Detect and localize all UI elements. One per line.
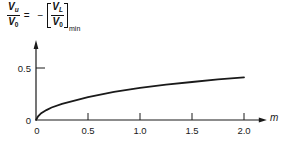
x-tick-label: 1.5: [185, 125, 198, 136]
y-tick-label: 0.5: [18, 63, 31, 74]
tick-labels: 00.51.01.52.000.5: [18, 63, 251, 137]
x-tick-label: 2.0: [237, 125, 250, 136]
x-tick-label: 0.5: [81, 125, 94, 136]
x-axis-label: m: [270, 112, 278, 123]
axes: [34, 40, 267, 123]
x-tick-label: 0: [34, 125, 39, 136]
x-tick-label: 1.0: [133, 125, 146, 136]
x-axis-arrow-icon: [259, 117, 267, 122]
y-axis-arrow-icon: [34, 40, 39, 49]
y-tick-label: 0: [26, 115, 31, 126]
ticks: [36, 68, 244, 120]
line-chart: 00.51.01.52.000.5 m: [0, 0, 284, 143]
